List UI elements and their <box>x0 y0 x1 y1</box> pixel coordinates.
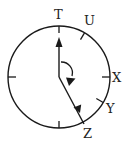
tick-y <box>96 99 103 103</box>
label-u: U <box>84 13 95 28</box>
label-y: Y <box>105 101 115 116</box>
vector-to-z <box>59 77 84 124</box>
label-z: Z <box>83 126 92 141</box>
rotation-arc <box>61 62 72 76</box>
tick-u <box>81 33 85 40</box>
label-t: T <box>54 7 63 22</box>
arrowhead-up-icon <box>56 37 63 47</box>
clock-rotation-diagram: T U X Y Z <box>0 0 130 142</box>
label-x: X <box>112 70 122 85</box>
rotation-arrowhead-icon <box>66 78 76 87</box>
